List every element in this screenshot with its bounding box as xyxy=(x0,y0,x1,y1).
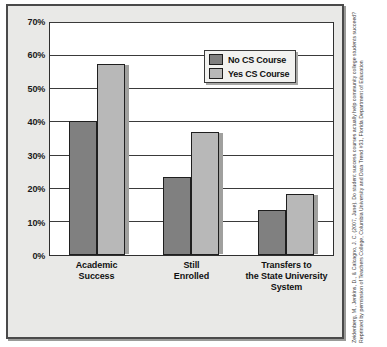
legend-item-no-cs-course: No CS Course xyxy=(209,54,289,65)
legend: No CS Course Yes CS Course xyxy=(204,50,296,83)
y-axis-tick-label: 40% xyxy=(13,117,45,127)
y-axis-tick-label: 20% xyxy=(13,184,45,194)
y-axis-tick-label: 50% xyxy=(13,84,45,94)
bar-no-cs-course[interactable] xyxy=(69,121,97,255)
figure: 0%10%20%30%40%50%60%70% No CS Course Yes… xyxy=(0,0,387,347)
x-axis-label: Transfers tothe State UniversitySystem xyxy=(239,260,334,293)
bar-yes-cs-course[interactable] xyxy=(97,64,125,255)
x-axis-label: AcademicSuccess xyxy=(49,260,144,293)
y-axis-tick-label: 30% xyxy=(13,151,45,161)
bar-group xyxy=(50,23,144,255)
y-axis-tick-label: 70% xyxy=(13,17,45,27)
y-axis-tick-label: 0% xyxy=(13,251,45,261)
legend-label-no-cs-course: No CS Course xyxy=(228,55,286,65)
legend-label-yes-cs-course: Yes CS Course xyxy=(228,69,289,79)
chart-frame: 0%10%20%30%40%50%60%70% No CS Course Yes… xyxy=(6,4,344,339)
bar-no-cs-course[interactable] xyxy=(163,177,191,255)
x-axis-label: StillEnrolled xyxy=(144,260,239,293)
legend-item-yes-cs-course: Yes CS Course xyxy=(209,68,289,79)
x-axis-labels: AcademicSuccessStillEnrolledTransfers to… xyxy=(49,260,334,293)
bar-no-cs-course[interactable] xyxy=(258,210,286,255)
bar-yes-cs-course[interactable] xyxy=(286,194,314,255)
bar-yes-cs-course[interactable] xyxy=(191,132,219,255)
y-axis-tick-label: 10% xyxy=(13,218,45,228)
citation: Zeidenberg, M., Jenkins, D., & Calcagno,… xyxy=(348,0,387,347)
y-axis-tick-label: 60% xyxy=(13,50,45,60)
light-gray-swatch-icon xyxy=(209,68,223,79)
citation-text: Zeidenberg, M., Jenkins, D., & Calcagno,… xyxy=(351,3,366,343)
dark-gray-swatch-icon xyxy=(209,54,223,65)
